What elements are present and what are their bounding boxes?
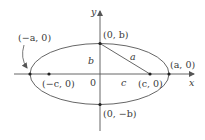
point-right-focus: [148, 72, 151, 75]
label-segment-a: a: [130, 51, 136, 62]
y-axis-label: y: [90, 6, 97, 17]
point-right-vertex: [167, 72, 170, 75]
label-segment-c: c: [121, 77, 127, 88]
label-left-vertex: (−a, 0): [18, 32, 51, 43]
origin-label: 0: [90, 77, 96, 88]
point-left-vertex: [28, 72, 31, 75]
label-segment-b: b: [88, 55, 94, 66]
x-axis-label: x: [189, 77, 195, 88]
label-left-focus: (−c, 0): [42, 78, 75, 89]
point-bottom-vertex: [98, 103, 101, 106]
point-left-focus: [47, 72, 50, 75]
label-right-focus: (c, 0): [138, 78, 163, 89]
segment-a: [100, 44, 150, 75]
ellipse-diagram: y x 0 (0, b) (0, −b) (−a, 0) (a, 0) (−c,…: [0, 0, 205, 140]
leader-arrow: [23, 45, 27, 68]
point-top-vertex: [98, 42, 101, 45]
label-right-vertex: (a, 0): [170, 59, 195, 70]
label-top-vertex: (0, b): [103, 29, 129, 40]
label-bottom-vertex: (0, −b): [103, 108, 137, 119]
